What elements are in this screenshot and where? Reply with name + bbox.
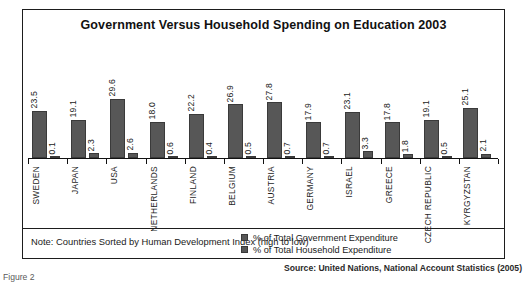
bar-value-label-government: 17.8 — [382, 103, 392, 121]
bar-value-label-government: 18.0 — [147, 102, 157, 120]
bar-group: 26.90.5 — [224, 38, 263, 158]
bar-government — [71, 120, 86, 158]
bar-value-label-government: 22.2 — [186, 94, 196, 112]
legend-label: % of Total Government Expenditure — [253, 233, 398, 243]
bar-value-label-government: 27.8 — [264, 83, 274, 101]
category-label: USA — [109, 166, 119, 184]
bar-government — [306, 122, 321, 158]
bar-government — [463, 108, 478, 158]
bar-group: 19.10.5 — [420, 38, 459, 158]
bar-group: 25.12.1 — [459, 38, 498, 158]
category-label: KYRGYZSTAN — [462, 166, 472, 225]
bar-government — [189, 114, 204, 158]
axis-tick — [341, 159, 342, 164]
chart-legend: % of Total Government Expenditure% of To… — [241, 232, 398, 256]
legend-item: % of Total Government Expenditure — [241, 232, 398, 243]
legend-swatch-icon — [241, 234, 248, 241]
bar-value-label-household: 0.7 — [321, 142, 331, 155]
category-label: GERMANY — [305, 166, 315, 210]
bar-groups: 23.50.119.12.329.62.618.00.622.20.426.90… — [28, 38, 498, 158]
bar-household — [363, 151, 373, 158]
bar-value-label-government: 23.1 — [342, 92, 352, 110]
bar-value-label-household: 0.4 — [204, 142, 214, 155]
axis-tick — [381, 159, 382, 164]
axis-tick — [185, 159, 186, 164]
bar-value-label-household: 2.1 — [478, 139, 488, 152]
axis-tick — [498, 159, 499, 164]
bar-value-label-government: 23.5 — [29, 91, 39, 109]
legend-item: % of Total Household Expenditure — [241, 244, 398, 255]
bar-value-label-household: 1.8 — [400, 140, 410, 153]
bar-group: 18.00.6 — [146, 38, 185, 158]
category-label: AUSTRIA — [266, 166, 276, 204]
bar-value-label-household: 3.3 — [360, 137, 370, 150]
axis-tick — [106, 159, 107, 164]
bar-value-label-government: 19.1 — [421, 100, 431, 118]
bar-group: 22.20.4 — [185, 38, 224, 158]
legend-label: % of Total Household Expenditure — [253, 245, 391, 255]
category-label: FINLAND — [188, 166, 198, 204]
bar-value-label-household: 2.3 — [86, 139, 96, 152]
bar-government — [110, 99, 125, 158]
category-label: GREECE — [384, 166, 394, 203]
category-label: NETHERLANDS — [149, 166, 159, 232]
axis-tick — [28, 159, 29, 164]
plot-area: 23.50.119.12.329.62.618.00.622.20.426.90… — [28, 38, 498, 158]
footer-divider — [23, 228, 504, 229]
bar-value-label-household: 0.5 — [439, 142, 449, 155]
axis-tick — [67, 159, 68, 164]
bar-value-label-government: 25.1 — [460, 88, 470, 106]
source-text: Source: United Nations, National Account… — [284, 263, 522, 273]
bar-group: 19.12.3 — [67, 38, 106, 158]
x-axis — [28, 158, 498, 165]
bar-value-label-government: 29.6 — [107, 79, 117, 97]
bar-group: 27.80.7 — [263, 38, 302, 158]
chart-title: Government Versus Household Spending on … — [23, 18, 504, 32]
bar-value-label-household: 0.6 — [165, 142, 175, 155]
category-label: BELGIUM — [227, 166, 237, 206]
category-label: JAPAN — [70, 166, 80, 194]
bar-government — [345, 112, 360, 158]
bar-group: 17.81.8 — [381, 38, 420, 158]
bar-group: 23.50.1 — [28, 38, 67, 158]
bar-group: 17.90.7 — [302, 38, 341, 158]
bar-value-label-government: 26.9 — [225, 85, 235, 103]
bar-value-label-government: 17.9 — [303, 103, 313, 121]
bar-government — [424, 120, 439, 158]
category-label: SWEDEN — [31, 166, 41, 205]
bar-group: 23.13.3 — [341, 38, 380, 158]
bar-value-label-household: 0.7 — [282, 142, 292, 155]
bar-pair — [345, 112, 373, 158]
axis-tick — [224, 159, 225, 164]
bar-government — [385, 122, 400, 158]
axis-tick — [146, 159, 147, 164]
bar-value-label-household: 0.1 — [47, 142, 57, 155]
axis-tick — [263, 159, 264, 164]
legend-swatch-icon — [241, 246, 248, 253]
bar-government — [228, 104, 243, 158]
axis-tick — [420, 159, 421, 164]
bar-government — [267, 102, 282, 158]
axis-tick — [302, 159, 303, 164]
bar-value-label-household: 2.6 — [125, 138, 135, 151]
bar-government — [150, 122, 165, 158]
figure-root: Government Versus Household Spending on … — [0, 0, 530, 283]
figure-caption: Figure 2 — [3, 272, 35, 282]
bar-government — [32, 111, 47, 158]
category-label: CZECH REPUBLIC — [423, 166, 433, 243]
chart-frame: Government Versus Household Spending on … — [22, 9, 505, 259]
category-label: ISRAEL — [344, 166, 354, 198]
bar-value-label-household: 0.5 — [243, 142, 253, 155]
bar-value-label-government: 19.1 — [68, 100, 78, 118]
axis-tick — [459, 159, 460, 164]
bar-group: 29.62.6 — [106, 38, 145, 158]
